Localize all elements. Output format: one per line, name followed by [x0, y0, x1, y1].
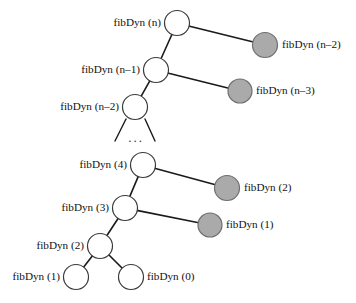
tree-node-label-l3: fibDyn (1)	[226, 218, 274, 231]
lower-tree-edge	[155, 168, 216, 185]
vertical-ellipsis: ...	[128, 130, 144, 145]
upper-tree-edge	[141, 80, 150, 96]
tree-node-label-l6: fibDyn (0)	[147, 270, 195, 283]
lower-tree-labels: fibDyn (4)fibDyn (2)fibDyn (3)fibDyn (1)…	[12, 158, 291, 283]
tree-node-l1	[215, 176, 240, 201]
tree-node-l0	[131, 153, 156, 178]
upper-tree-edge	[189, 26, 254, 42]
lower-tree-edge	[108, 254, 122, 268]
tree-node-label-l5: fibDyn (1)	[12, 270, 60, 283]
tree-node-u3	[228, 79, 252, 103]
continuation-stub-left	[115, 119, 126, 141]
tree-node-label-u3: fibDyn (n–3)	[256, 84, 315, 97]
tree-node-label-l0: fibDyn (4)	[79, 158, 127, 171]
upper-tree-edge	[161, 34, 172, 59]
lower-tree-edge	[130, 176, 139, 197]
tree-node-u4	[123, 95, 148, 120]
tree-node-label-l4: fibDyn (2)	[36, 239, 84, 252]
tree-node-label-l2: fibDyn (3)	[61, 201, 109, 214]
tree-node-u0	[165, 11, 190, 36]
tree-node-u2	[144, 58, 169, 83]
tree-node-l2	[113, 196, 138, 221]
lower-tree-edge	[107, 218, 119, 236]
tree-node-label-u2: fibDyn (n–1)	[81, 63, 140, 76]
tree-node-l3	[198, 213, 222, 237]
tree-canvas: fibDyn (n)fibDyn (n–2)fibDyn (n–1)fibDyn…	[0, 0, 356, 303]
tree-node-l5	[64, 265, 89, 290]
continuation-stub-right	[145, 119, 155, 141]
lower-tree-edge	[137, 210, 199, 222]
tree-node-label-u4: fibDyn (n–2)	[60, 100, 119, 113]
recursion-tree-figure: fibDyn (n)fibDyn (n–2)fibDyn (n–1)fibDyn…	[0, 0, 356, 303]
tree-node-l6	[119, 265, 144, 290]
tree-node-label-u0: fibDyn (n)	[113, 16, 161, 29]
tree-node-l4	[88, 234, 113, 259]
tree-node-label-l1: fibDyn (2)	[244, 181, 292, 194]
lower-tree-edge	[83, 255, 92, 267]
tree-node-label-u1: fibDyn (n–2)	[282, 38, 341, 51]
upper-tree-edge	[168, 73, 229, 88]
upper-tree-labels: fibDyn (n)fibDyn (n–2)fibDyn (n–1)fibDyn…	[60, 16, 341, 113]
tree-node-u1	[253, 33, 278, 58]
